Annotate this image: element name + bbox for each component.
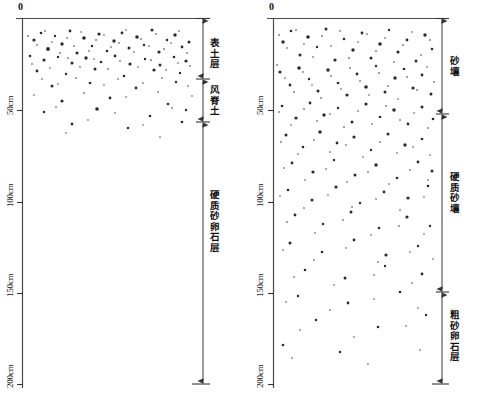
left-layer-label-1: 表土层 xyxy=(208,38,221,70)
left-layer-label-2: 风脊土 xyxy=(208,85,221,117)
right-layer-annotations xyxy=(250,0,479,398)
left-soil-profile-panel: 0 50cm 100cm 150cm 200cm xyxy=(0,0,250,398)
right-soil-profile-panel: 0 50cm 100cm 150cm 200cm xyxy=(250,0,479,398)
soil-profile-figure: 0 50cm 100cm 150cm 200cm xyxy=(0,0,479,398)
right-layer-label-2: 硬质砂壤 xyxy=(448,172,461,214)
right-layer-boundaries xyxy=(432,19,449,385)
right-layer-label-1: 砂壤 xyxy=(448,56,461,77)
left-layer-label-3: 硬质砂卵石层 xyxy=(208,190,221,253)
right-layer-label-3: 粗砂卵石层 xyxy=(448,310,461,363)
